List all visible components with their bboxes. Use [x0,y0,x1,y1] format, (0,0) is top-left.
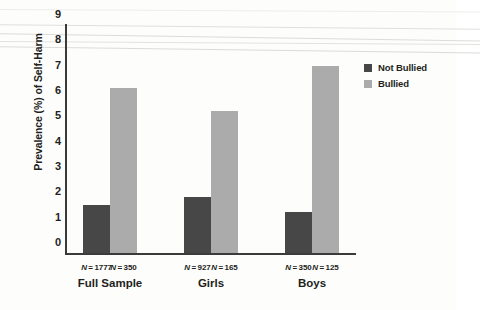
legend-item-not-bullied: Not Bullied [364,62,427,73]
y-axis-tick-label: 0 [55,237,61,248]
y-axis-tick-label: 9 [55,9,61,20]
category-label-boys: Boys [298,277,326,289]
bar-girls-bullied [211,111,238,253]
bar-boys-not-bullied [285,212,312,253]
y-axis-tick-label: 2 [55,186,61,197]
y-axis-tick-label: 3 [55,161,61,172]
y-axis-tick-label: 5 [55,110,61,121]
sample-size-label: N = 125 [312,263,338,272]
legend-label-not-bullied: Not Bullied [378,62,427,73]
bar-boys-bullied [312,66,339,253]
y-axis-title: Prevalence (%) of Self-Harm [32,17,44,187]
chart-legend: Not Bullied Bullied [364,62,427,94]
sample-size-label: N = 927 [184,263,210,272]
bar-girls-not-bullied [184,197,211,253]
category-label-full-sample: Full Sample [78,277,143,289]
bar-full-sample-not-bullied [83,205,110,253]
y-axis-tick-label: 4 [55,135,61,146]
y-axis-tick-label: 6 [55,85,61,96]
sample-size-label: N = 1777 [81,263,112,272]
sample-size-label: N = 350 [110,263,136,272]
scan-artifact-line [0,9,480,13]
legend-label-bullied: Bullied [378,78,409,89]
y-axis-tick-label: 7 [55,59,61,70]
y-axis-tick-label: 8 [55,34,61,45]
plot-area: 0123456789N = 1777N = 350Full SampleN = … [66,25,356,253]
sample-size-label: N = 165 [211,263,237,272]
legend-swatch-not-bullied [364,64,372,72]
legend-item-bullied: Bullied [364,78,427,89]
y-axis-tick-label: 1 [55,211,61,222]
legend-swatch-bullied [364,80,372,88]
x-axis-line [65,253,356,255]
bar-full-sample-bullied [110,88,137,253]
sample-size-label: N = 350 [285,263,311,272]
category-label-girls: Girls [198,277,224,289]
